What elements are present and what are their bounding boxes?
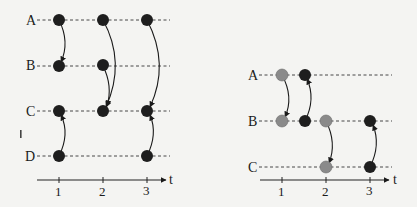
node-a1 <box>53 14 65 26</box>
row-label-c: C <box>248 160 257 175</box>
tick-label-1: 1 <box>278 184 285 199</box>
node-b2-gray <box>320 115 332 127</box>
row-label-c: C <box>26 104 35 119</box>
tick-label-1: 1 <box>55 184 62 199</box>
node-a2 <box>97 14 109 26</box>
edge-b15-a15 <box>305 79 311 121</box>
node-c2 <box>97 105 109 117</box>
axis-label-t: t <box>393 172 397 187</box>
left-diagram: A B C D 1 2 3 t <box>25 13 173 199</box>
node-a3 <box>141 14 153 26</box>
edge-a1-b1 <box>59 20 65 62</box>
right-diagram: A B C 1 2 3 t <box>248 68 397 199</box>
tick-label-3: 3 <box>143 183 150 198</box>
node-b3-black <box>364 115 376 127</box>
node-b1-gray <box>276 115 288 127</box>
node-b15-black <box>299 115 311 127</box>
row-label-d: D <box>25 149 35 164</box>
node-b1 <box>53 60 65 72</box>
edge-d3-c3 <box>147 115 153 156</box>
node-c2-gray <box>320 161 332 173</box>
edge-c3-b3 <box>370 125 376 167</box>
row-label-b: B <box>26 58 35 73</box>
row-label-a: A <box>26 13 37 28</box>
row-label-b: B <box>248 114 257 129</box>
node-c1 <box>53 105 65 117</box>
edge-b2-c2 <box>326 121 332 163</box>
row-label-a: A <box>248 68 259 83</box>
diagram-canvas: A B C D 1 2 3 t <box>0 0 417 207</box>
tick-label-2: 2 <box>322 184 329 199</box>
edge-b2-c2 <box>103 66 109 106</box>
node-b2 <box>97 59 109 71</box>
node-a1-gray <box>276 69 288 81</box>
tick-label-2: 2 <box>99 184 106 199</box>
node-d3 <box>141 150 153 162</box>
edge-a1-b1 <box>282 75 289 117</box>
node-c3-black <box>364 161 376 173</box>
node-a15-black <box>299 69 311 81</box>
axis-label-t: t <box>169 172 173 187</box>
edge-d1-c1 <box>59 115 65 156</box>
edge-a3-c3 <box>147 20 159 107</box>
tick-label-3: 3 <box>366 183 373 198</box>
node-d1 <box>53 150 65 162</box>
stray-mark <box>20 130 22 138</box>
node-c3 <box>141 105 153 117</box>
